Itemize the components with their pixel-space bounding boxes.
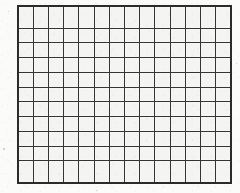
grid-cell[interactable] [109,6,124,28]
grid-cell[interactable] [155,102,170,117]
grid-cell[interactable] [216,58,231,73]
grid-cell[interactable] [170,131,185,146]
grid-cell[interactable] [140,72,155,87]
grid-cell[interactable] [33,43,48,58]
grid-cell[interactable] [216,161,231,183]
grid-cell[interactable] [200,161,215,183]
grid-cell[interactable] [216,131,231,146]
grid-cell[interactable] [79,6,94,28]
grid-cell[interactable] [140,102,155,117]
grid-cell[interactable] [33,72,48,87]
grid-cell[interactable] [124,161,139,183]
grid-cell[interactable] [140,28,155,43]
grid-cell[interactable] [170,28,185,43]
grid-cell[interactable] [64,161,79,183]
grid-cell[interactable] [33,161,48,183]
grid-cell[interactable] [109,146,124,161]
grid-cell[interactable] [48,28,63,43]
grid-cell[interactable] [124,6,139,28]
grid-cell[interactable] [94,102,109,117]
grid-cell[interactable] [94,117,109,132]
grid-cell[interactable] [64,102,79,117]
grid-cell[interactable] [48,102,63,117]
grid-cell[interactable] [200,43,215,58]
grid-cell[interactable] [18,6,33,28]
grid-cell[interactable] [48,131,63,146]
grid-cell[interactable] [79,102,94,117]
grid-cell[interactable] [155,146,170,161]
grid-cell[interactable] [140,43,155,58]
grid-cell[interactable] [216,28,231,43]
grid-cell[interactable] [33,58,48,73]
grid-cell[interactable] [109,43,124,58]
grid-cell[interactable] [79,131,94,146]
grid-cell[interactable] [33,102,48,117]
grid-cell[interactable] [124,146,139,161]
grid-cell[interactable] [18,161,33,183]
grid-cell[interactable] [185,161,200,183]
grid-cell[interactable] [79,87,94,102]
grid-cell[interactable] [64,28,79,43]
grid-cell[interactable] [216,6,231,28]
grid-cell[interactable] [48,117,63,132]
grid-cell[interactable] [33,28,48,43]
grid-cell[interactable] [170,87,185,102]
grid-cell[interactable] [185,146,200,161]
blank-grid[interactable] [17,5,232,184]
grid-cell[interactable] [109,72,124,87]
grid-cell[interactable] [200,146,215,161]
grid-cell[interactable] [185,43,200,58]
grid-cell[interactable] [170,102,185,117]
grid-cell[interactable] [200,28,215,43]
grid-cell[interactable] [94,6,109,28]
grid-cell[interactable] [185,28,200,43]
grid-cell[interactable] [64,131,79,146]
grid-cell[interactable] [33,6,48,28]
grid-cell[interactable] [94,87,109,102]
grid-cell[interactable] [124,72,139,87]
grid-cell[interactable] [200,117,215,132]
grid-cell[interactable] [33,87,48,102]
grid-cell[interactable] [200,102,215,117]
grid-cell[interactable] [140,117,155,132]
grid-cell[interactable] [79,43,94,58]
grid-cell[interactable] [216,87,231,102]
grid-cell[interactable] [200,131,215,146]
grid-cell[interactable] [33,146,48,161]
grid-cell[interactable] [216,146,231,161]
grid-cell[interactable] [48,146,63,161]
grid-cell[interactable] [109,131,124,146]
grid-cell[interactable] [140,58,155,73]
grid-cell[interactable] [124,117,139,132]
grid-cell[interactable] [64,146,79,161]
grid-cell[interactable] [109,87,124,102]
grid-cell[interactable] [79,28,94,43]
grid-cell[interactable] [18,72,33,87]
grid-cell[interactable] [64,6,79,28]
grid-cell[interactable] [170,117,185,132]
grid-cell[interactable] [79,58,94,73]
grid-cell[interactable] [124,87,139,102]
grid-cell[interactable] [155,28,170,43]
grid-cell[interactable] [48,161,63,183]
grid-cell[interactable] [124,58,139,73]
grid-cell[interactable] [64,43,79,58]
grid-cell[interactable] [18,131,33,146]
grid-cell[interactable] [18,43,33,58]
grid-cell[interactable] [94,58,109,73]
grid-cell[interactable] [140,146,155,161]
grid-cell[interactable] [64,72,79,87]
grid-cell[interactable] [124,28,139,43]
grid-cell[interactable] [124,131,139,146]
grid-cell[interactable] [155,58,170,73]
grid-cell[interactable] [109,28,124,43]
grid-cell[interactable] [18,117,33,132]
grid-cell[interactable] [170,72,185,87]
grid-cell[interactable] [185,117,200,132]
grid-cell[interactable] [94,146,109,161]
grid-cell[interactable] [155,6,170,28]
grid-cell[interactable] [79,146,94,161]
grid-cell[interactable] [64,58,79,73]
grid-cell[interactable] [64,87,79,102]
grid-cell[interactable] [200,87,215,102]
